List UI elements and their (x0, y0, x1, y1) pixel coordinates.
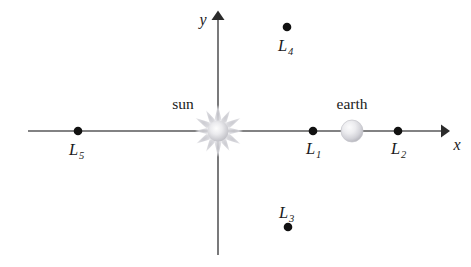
lagrange-point-label-l4: L 4 (277, 36, 294, 57)
lagrange-label-letter: L (305, 139, 315, 158)
lagrange-point-label-l1: L 1 (305, 139, 321, 160)
lagrange-label-subscript: 4 (288, 46, 294, 57)
y-axis-arrowhead (212, 11, 225, 21)
lagrange-point-dot-l4 (283, 23, 292, 32)
lagrange-label-letter: L (68, 140, 78, 159)
lagrange-label-subscript: 2 (401, 149, 407, 160)
lagrange-label-letter: L (277, 36, 287, 55)
lagrange-point-label-l2: L 2 (390, 139, 407, 160)
earth-sphere-icon (341, 120, 363, 142)
lagrange-label-letter: L (278, 203, 288, 222)
earth-label: earth (337, 95, 368, 112)
lagrange-point-dot-l1 (309, 127, 318, 136)
lagrange-point-label-l5: L 5 (68, 140, 84, 161)
x-axis-arrowhead (441, 125, 450, 138)
lagrange-label-letter: L (390, 139, 400, 158)
x-axis-label: x (452, 136, 460, 153)
lagrange-points-diagram: y x sun earth L 1 L 2 L 3 L 4 L 5 (0, 0, 471, 267)
lagrange-point-label-l3: L 3 (278, 203, 294, 224)
lagrange-point-dot-l2 (394, 127, 403, 136)
lagrange-label-subscript: 5 (79, 150, 84, 161)
lagrange-point-dot-l5 (74, 127, 83, 136)
lagrange-label-subscript: 3 (288, 213, 294, 224)
sun-label: sun (172, 95, 194, 112)
lagrange-label-subscript: 1 (316, 149, 321, 160)
y-axis-label: y (197, 11, 207, 29)
sun-starburst-icon (193, 105, 243, 157)
diagram-canvas: y x sun earth L 1 L 2 L 3 L 4 L 5 (0, 0, 471, 267)
